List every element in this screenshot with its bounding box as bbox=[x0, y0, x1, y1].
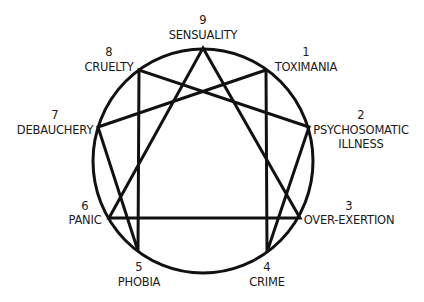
point-4-label: 4 CRIME bbox=[249, 260, 285, 289]
point-8-number: 8 bbox=[105, 45, 112, 59]
point-6-label: 6 PANIC bbox=[68, 199, 101, 227]
point-9-name: SENSUALITY bbox=[169, 28, 239, 42]
point-8-label: 8 CRUELTY bbox=[84, 45, 134, 74]
point-2-name-line2: ILLNESS bbox=[338, 137, 383, 151]
point-6-name: PANIC bbox=[68, 213, 101, 227]
enneagram-diagram: 9 SENSUALITY 8 CRUELTY 1 TOXIMANIA 7 DEB… bbox=[0, 0, 424, 302]
point-1-label: 1 TOXIMANIA bbox=[274, 45, 338, 74]
hexad-lines bbox=[98, 70, 309, 252]
point-5-number: 5 bbox=[135, 260, 142, 274]
point-4-number: 4 bbox=[263, 260, 270, 274]
point-3-label: 3 OVER-EXERTION bbox=[304, 199, 395, 227]
point-7-number: 7 bbox=[51, 108, 58, 122]
point-8-name: CRUELTY bbox=[84, 60, 134, 74]
point-1-number: 1 bbox=[302, 45, 309, 59]
point-2-label: 2 PSYCHOSOMATIC ILLNESS bbox=[313, 108, 409, 151]
point-9-label: 9 SENSUALITY bbox=[169, 13, 239, 42]
point-7-name: DEBAUCHERY bbox=[17, 123, 95, 137]
point-3-number: 3 bbox=[345, 199, 352, 213]
point-1-name: TOXIMANIA bbox=[274, 60, 338, 74]
point-2-name: PSYCHOSOMATIC bbox=[313, 123, 409, 137]
point-7-label: 7 DEBAUCHERY bbox=[17, 108, 95, 137]
point-9-number: 9 bbox=[199, 13, 206, 27]
point-4-name: CRIME bbox=[249, 275, 285, 289]
point-2-number: 2 bbox=[357, 108, 364, 122]
point-5-name: PHOBIA bbox=[118, 275, 161, 289]
point-5-label: 5 PHOBIA bbox=[118, 260, 161, 289]
point-3-name: OVER-EXERTION bbox=[304, 213, 395, 227]
enneagram-circle bbox=[93, 49, 313, 273]
point-6-number: 6 bbox=[81, 199, 88, 213]
